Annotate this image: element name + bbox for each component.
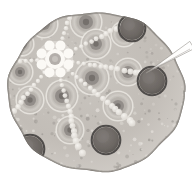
micrograph-figure bbox=[0, 0, 192, 181]
micrograph-image bbox=[0, 0, 192, 181]
